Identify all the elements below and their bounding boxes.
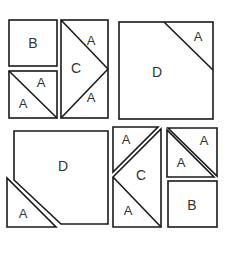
label-a-bottom-right-upper: A [200,133,209,148]
label-a-bottom-middle-lower: A [124,203,133,218]
label-a-top-left-upper: A [37,75,46,90]
label-a-top-middle-upper: A [87,33,96,48]
label-a-bottom-right-lower: A [177,155,186,170]
label-a-top-middle-lower: A [87,90,96,105]
label-a-top-right-corner: A [194,29,203,44]
label-a-bottom-left: A [19,206,28,221]
label-b-top-left: B [28,35,37,51]
label-a-bottom-middle-upper: A [122,132,131,147]
piece-tall-rect-top-middle [61,20,108,118]
label-c-bottom-middle: C [136,167,146,183]
label-a-top-left-lower: A [19,96,28,111]
label-d-top-right: D [152,64,162,80]
label-c-top-middle: C [71,60,81,76]
polygon-packing-diagram: B A A A C A D A D A A C A [0,0,227,277]
label-d-bottom-left: D [58,158,68,174]
label-b-bottom-right: B [187,197,196,213]
figure-canvas: B A A A C A D A D A A C A [0,0,227,277]
